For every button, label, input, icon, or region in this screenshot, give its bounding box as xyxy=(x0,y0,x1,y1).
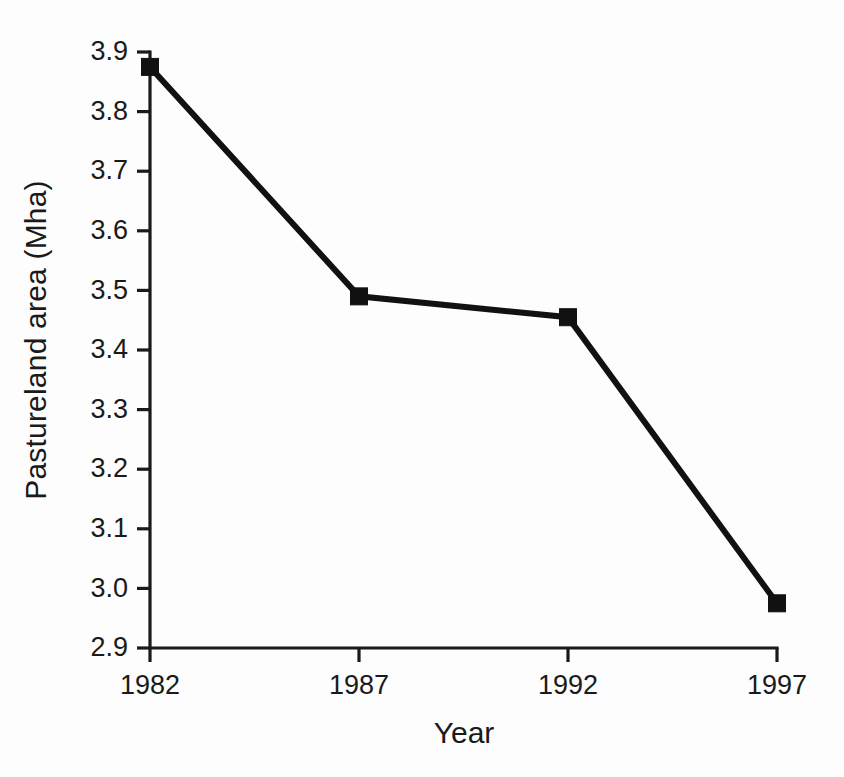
x-tick-label: 1997 xyxy=(747,670,807,700)
y-tick-label: 3.2 xyxy=(90,453,128,483)
x-tick-label: 1982 xyxy=(120,670,180,700)
y-tick-label: 3.3 xyxy=(90,394,128,424)
x-axis-ticks: 1982198719921997 xyxy=(120,648,807,700)
y-tick-label: 3.9 xyxy=(90,36,128,66)
line-chart-plot: 3.93.83.73.63.53.43.33.23.13.02.9 198219… xyxy=(0,0,844,777)
chart-figure: Pastureland area (Mha) Year 3.93.83.73.6… xyxy=(0,0,844,777)
y-tick-label: 3.7 xyxy=(90,155,128,185)
data-point-marker[interactable]: 1982: 3.875 xyxy=(142,58,159,75)
data-point-marker[interactable]: 1987: 3.49 xyxy=(351,288,368,305)
data-point-marker[interactable]: 1997: 2.975 xyxy=(769,595,786,612)
data-point-marker[interactable]: 1992: 3.455 xyxy=(560,309,577,326)
y-tick-label: 3.8 xyxy=(90,96,128,126)
x-tick-label: 1987 xyxy=(329,670,389,700)
x-tick-label: 1992 xyxy=(538,670,598,700)
y-axis-ticks: 3.93.83.73.63.53.43.33.23.13.02.9 xyxy=(90,36,150,662)
data-series-group: 1982: 3.8751987: 3.491992: 3.4551997: 2.… xyxy=(142,58,786,611)
axis-spines xyxy=(150,52,777,648)
y-tick-label: 3.6 xyxy=(90,215,128,245)
y-tick-label: 3.5 xyxy=(90,275,128,305)
series-line-pastureland-area xyxy=(150,67,777,603)
y-tick-label: 3.1 xyxy=(90,513,128,543)
y-tick-label: 2.9 xyxy=(90,632,128,662)
y-tick-label: 3.4 xyxy=(90,334,128,364)
y-tick-label: 3.0 xyxy=(90,573,128,603)
